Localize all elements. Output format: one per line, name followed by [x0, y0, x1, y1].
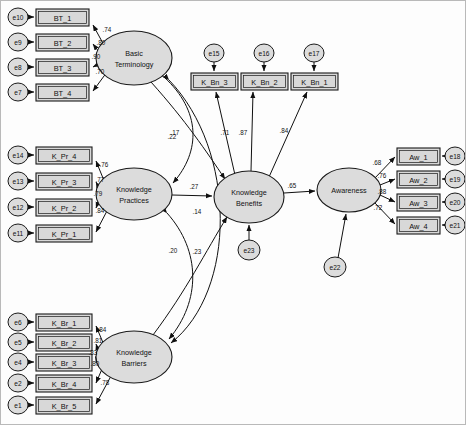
loading-coefficient-k_br_5: .78 [101, 379, 110, 386]
error-term-e17[interactable]: e17 [304, 44, 324, 62]
error-term-e8[interactable]: e8 [8, 58, 28, 76]
indicator-k_bn_1[interactable]: K_Bn_1 [291, 73, 338, 90]
indicator-label: K_Bn_1 [301, 78, 327, 87]
latent-label-line1: Knowledge [116, 348, 152, 357]
indicator-label: K_Bn_3 [201, 78, 227, 87]
error-label: e8 [14, 64, 22, 71]
indicator-bt_3[interactable]: BT_3 [36, 59, 89, 76]
error-label: e19 [449, 176, 460, 183]
loading-coefficient-k_br_2: .81 [94, 337, 103, 344]
error-label: e21 [449, 222, 460, 229]
indicator-bt_2[interactable]: BT_2 [36, 34, 89, 51]
error-term-e1[interactable]: e1 [8, 396, 28, 414]
error-term-e7[interactable]: e7 [8, 83, 28, 101]
indicator-label: BT_1 [54, 14, 72, 23]
error-term-e4[interactable]: e4 [8, 353, 28, 371]
error-arrows-top [214, 62, 314, 71]
indicator-k_bn_2[interactable]: K_Bn_2 [241, 73, 288, 90]
indicator-aw_4[interactable]: Aw_4 [397, 217, 440, 234]
residual-label: e22 [329, 264, 340, 271]
error-label: e11 [13, 230, 24, 237]
loading-coefficient-k_pr_2: .79 [94, 190, 103, 197]
latent-label-line2: Benefits [236, 199, 262, 208]
loading-coefficient-bt_3: .90 [92, 53, 101, 60]
residual-label: e23 [243, 247, 254, 254]
indicator-k_pr_1[interactable]: K_Pr_1 [36, 225, 92, 242]
error-term-e16[interactable]: e16 [254, 44, 274, 62]
indicator-aw_1[interactable]: Aw_1 [397, 148, 440, 165]
indicator-k_br_2[interactable]: K_Br_2 [36, 334, 92, 351]
latent-ellipse[interactable] [96, 331, 172, 383]
indicator-k_br_4[interactable]: K_Br_4 [36, 375, 92, 392]
latent-factor-kp[interactable]: KnowledgePractices [96, 168, 172, 220]
latent-label: Awareness [331, 186, 367, 195]
error-term-e13[interactable]: e13 [8, 172, 28, 190]
error-term-e21[interactable]: e21 [445, 216, 465, 234]
loading-coefficient-bt_1: .74 [103, 26, 112, 33]
error-term-e2[interactable]: e2 [8, 374, 28, 392]
indicator-label: Aw_3 [409, 199, 427, 208]
indicator-k_pr_2[interactable]: K_Pr_2 [36, 199, 92, 216]
indicator-aw_3[interactable]: Aw_3 [397, 194, 440, 211]
latent-factor-kbn[interactable]: KnowledgeBenefits [214, 171, 284, 223]
latent-label-line1: Knowledge [116, 185, 152, 194]
indicator-bt_4[interactable]: BT_4 [36, 84, 89, 101]
indicator-k_br_1[interactable]: K_Br_1 [36, 314, 92, 331]
indicator-aw_2[interactable]: Aw_2 [397, 171, 440, 188]
loading-coefficient-k_br_4: .80 [91, 360, 100, 367]
error-label: e12 [12, 204, 23, 211]
error-label: e4 [14, 359, 22, 366]
latent-ellipse[interactable] [96, 31, 172, 85]
error-label: e5 [14, 339, 22, 346]
indicator-label: BT_4 [54, 89, 72, 98]
error-term-e5[interactable]: e5 [8, 333, 28, 351]
path-coefficient-kbn-to-aw: .65 [288, 182, 297, 189]
latent-ellipse[interactable] [96, 168, 172, 220]
error-term-e18[interactable]: e18 [445, 147, 465, 165]
error-term-e12[interactable]: e12 [8, 198, 28, 216]
error-term-e11[interactable]: e11 [8, 224, 28, 242]
loading-coefficient-bt_2: .80 [97, 39, 106, 46]
latent-label-line2: Practices [119, 196, 149, 205]
error-term-e20[interactable]: e20 [445, 193, 465, 211]
error-term-e19[interactable]: e19 [445, 170, 465, 188]
error-label: e13 [12, 178, 23, 185]
latent-factor-aw[interactable]: Awareness [317, 168, 381, 212]
indicator-k_bn_3[interactable]: K_Bn_3 [191, 73, 238, 90]
loading-coefficient-k_br_1: .84 [98, 326, 107, 333]
error-term-e14[interactable]: e14 [8, 146, 28, 164]
error-label: e15 [208, 50, 219, 57]
indicator-label: K_Br_2 [52, 339, 77, 348]
indicator-k_pr_3[interactable]: K_Pr_3 [36, 173, 92, 190]
indicator-k_br_3[interactable]: K_Br_3 [36, 354, 92, 371]
error-term-e6[interactable]: e6 [8, 313, 28, 331]
path-coefficient-kb-to-kbn: .14 [193, 208, 202, 215]
residual-e22-to-aw [338, 214, 346, 258]
error-label: e20 [449, 199, 460, 206]
loading-coefficient-aw_4: .72 [374, 204, 383, 211]
residual-term-e22[interactable]: e22 [324, 257, 346, 277]
latent-label-line1: Basic [125, 49, 143, 58]
residual-term-e23[interactable]: e23 [238, 240, 260, 260]
indicator-k_br_5[interactable]: K_Br_5 [36, 397, 92, 414]
loading-coefficient-aw_1: .68 [373, 159, 382, 166]
indicator-label: K_Br_1 [52, 319, 77, 328]
indicator-label: Aw_2 [409, 176, 427, 185]
error-label: e1 [14, 402, 22, 409]
latent-ellipse[interactable] [214, 171, 284, 223]
error-label: e17 [308, 50, 319, 57]
error-term-e15[interactable]: e15 [204, 44, 224, 62]
latent-factor-bt[interactable]: BasicTerminology [96, 31, 172, 85]
indicator-label: K_Bn_2 [251, 78, 277, 87]
latent-factor-kb[interactable]: KnowledgeBarriers [96, 331, 172, 383]
latent-label-line2: Barriers [121, 359, 147, 368]
indicator-bt_1[interactable]: BT_1 [36, 9, 89, 26]
indicator-label: K_Pr_3 [52, 178, 77, 187]
indicator-k_pr_4[interactable]: K_Pr_4 [36, 147, 92, 164]
loadings-knowledge-benefits [216, 92, 307, 177]
error-term-e9[interactable]: e9 [8, 33, 28, 51]
error-label: e9 [14, 39, 22, 46]
loading-coefficient-bt_4: .70 [96, 68, 105, 75]
error-arrows-right [442, 156, 447, 225]
error-term-e10[interactable]: e10 [8, 8, 28, 26]
